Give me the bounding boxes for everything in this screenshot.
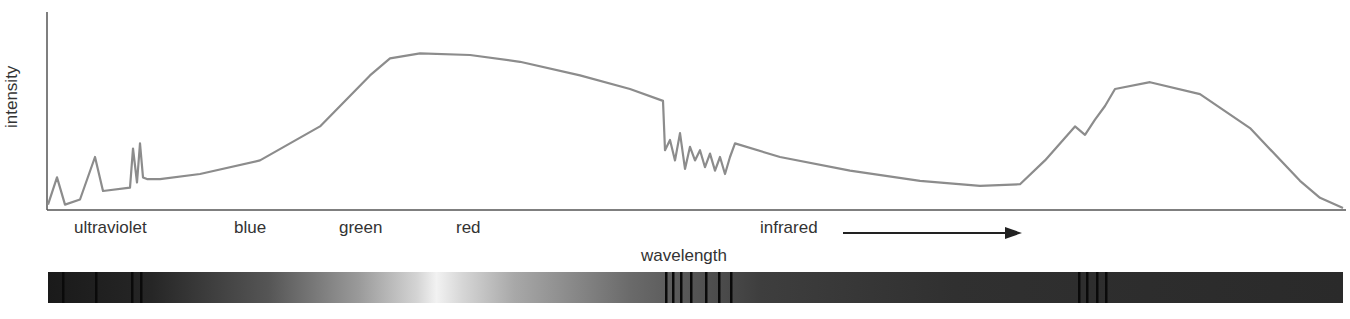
x-axis-label: wavelength (641, 246, 727, 266)
label-infrared: infrared (760, 218, 818, 238)
label-green: green (339, 218, 382, 238)
y-axis-label: intensity (2, 66, 22, 128)
spectrum-bar (48, 272, 1343, 303)
label-ultraviolet: ultraviolet (74, 218, 147, 238)
label-blue: blue (234, 218, 266, 238)
intensity-curve (48, 53, 1343, 208)
infrared-arrow (843, 227, 1022, 239)
label-red: red (456, 218, 481, 238)
